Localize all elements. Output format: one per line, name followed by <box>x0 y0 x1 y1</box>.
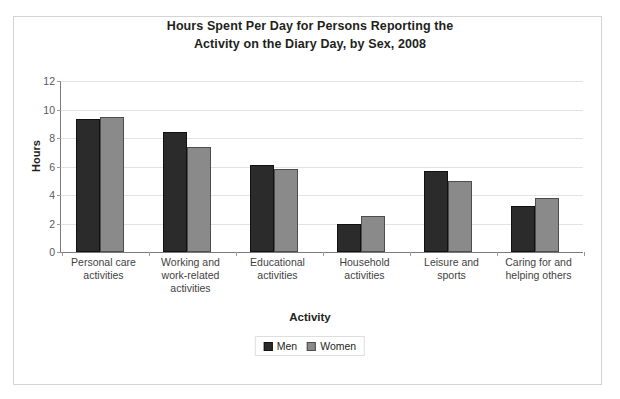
category-label-line: activities <box>60 269 147 282</box>
y-tickmark <box>57 224 61 225</box>
x-axis-category-label: Leisure andsports <box>408 256 495 282</box>
y-tickmark <box>57 167 61 168</box>
bar-group <box>236 81 323 252</box>
bar-women[interactable] <box>361 216 385 252</box>
bar-women[interactable] <box>274 169 298 252</box>
category-label-line: Personal care <box>60 256 147 269</box>
category-label-line: Household <box>321 256 408 269</box>
category-label-line: Leisure and <box>408 256 495 269</box>
legend-label-men: Men <box>277 340 297 352</box>
chart-title-line-2: Activity on the Diary Day, by Sex, 2008 <box>0 35 620 53</box>
category-label-line: sports <box>408 269 495 282</box>
category-label-line: activities <box>147 282 234 295</box>
y-tickmark <box>57 252 61 253</box>
y-axis-tick-label: 4 <box>49 189 55 201</box>
category-label-line: Educational <box>234 256 321 269</box>
x-axis-category-label: Personal careactivities <box>60 256 147 282</box>
x-axis-title: Activity <box>0 311 620 323</box>
legend-label-women: Women <box>320 340 356 352</box>
y-tickmark <box>57 81 61 82</box>
bar-men[interactable] <box>163 132 187 252</box>
category-label-line: activities <box>321 269 408 282</box>
chart-title: Hours Spent Per Day for Persons Reportin… <box>0 17 620 53</box>
x-axis-category-label: Working andwork-relatedactivities <box>147 256 234 295</box>
chart-legend: Men Women <box>255 336 365 356</box>
y-axis-tick-label: 2 <box>49 218 55 230</box>
bar-men[interactable] <box>76 119 100 252</box>
y-axis-title: Hours <box>30 140 42 172</box>
legend-swatch-women-icon <box>307 342 316 351</box>
bars-layer <box>62 81 583 252</box>
y-tickmark <box>57 110 61 111</box>
category-label-line: helping others <box>495 269 582 282</box>
bar-group <box>410 81 497 252</box>
x-axis-category-label: Householdactivities <box>321 256 408 282</box>
bar-men[interactable] <box>424 171 448 252</box>
legend-entry-women: Women <box>307 340 356 352</box>
chart-title-line-1: Hours Spent Per Day for Persons Reportin… <box>0 17 620 35</box>
bar-women[interactable] <box>100 117 124 252</box>
bar-men[interactable] <box>511 206 535 252</box>
legend-entry-men: Men <box>264 340 297 352</box>
category-label-line: Caring for and <box>495 256 582 269</box>
bar-women[interactable] <box>187 147 211 252</box>
bar-group <box>149 81 236 252</box>
x-tickmark <box>584 252 585 256</box>
legend-swatch-men-icon <box>264 342 273 351</box>
y-tickmark <box>57 195 61 196</box>
bar-men[interactable] <box>250 165 274 252</box>
y-tickmark <box>57 138 61 139</box>
category-label-line: Working and <box>147 256 234 269</box>
y-axis-tick-label: 10 <box>43 104 55 116</box>
bar-women[interactable] <box>535 198 559 252</box>
x-axis-category-labels: Personal careactivitiesWorking andwork-r… <box>60 256 582 312</box>
x-axis-category-label: Caring for andhelping others <box>495 256 582 282</box>
bar-women[interactable] <box>448 181 472 252</box>
bar-group <box>323 81 410 252</box>
bar-men[interactable] <box>337 224 361 253</box>
y-axis-tick-label: 6 <box>49 161 55 173</box>
y-axis-tick-label: 8 <box>49 132 55 144</box>
y-axis-tick-label: 12 <box>43 75 55 87</box>
y-axis-tick-label: 0 <box>49 246 55 258</box>
plot-area: 024681012 <box>60 81 583 253</box>
category-label-line: activities <box>234 269 321 282</box>
bar-group <box>62 81 149 252</box>
x-axis-category-label: Educationalactivities <box>234 256 321 282</box>
bar-group <box>497 81 584 252</box>
category-label-line: work-related <box>147 269 234 282</box>
